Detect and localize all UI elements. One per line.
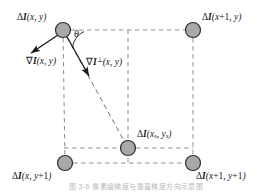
args-perpendicular: (x, y)	[103, 57, 123, 67]
args-bottom-left-b: )	[48, 171, 51, 181]
gradient-diagram: ΔI(x, y) ΔI(x+1, y) ΔI(x, y+1) ΔI(x+1, y…	[0, 0, 272, 193]
args-bottom-right-plus-2: +1	[232, 171, 242, 181]
label-gradient-vector: ∇I(x, y)	[26, 57, 56, 67]
node-bottom-left	[58, 156, 73, 171]
node-top-right	[186, 23, 201, 38]
sub-pixel-close-paren: )	[168, 129, 171, 139]
nabla-symbol-gradient: ∇	[26, 56, 33, 66]
perpendicular-gradient-vector-arrow	[66, 35, 89, 76]
gradient-vector-arrow	[31, 33, 61, 53]
label-perpendicular-gradient-vector: ∇I⊥(x, y)	[86, 57, 122, 67]
node-bottom-right	[186, 156, 201, 171]
node-top-left	[56, 23, 71, 38]
diagram-canvas	[0, 0, 272, 193]
args-bottom-right-plus-1: +1	[213, 171, 223, 181]
args-bottom-left-a: (x, y	[22, 171, 38, 181]
grid-line-left	[63, 30, 65, 163]
args-bottom-left-plus: +1	[38, 171, 48, 181]
args-bottom-right-c: )	[242, 171, 245, 181]
node-sub-pixel	[121, 141, 136, 156]
args-top-right-plus: +1	[219, 12, 229, 22]
figure-caption: 图 3-6 像素级梯度与垂直梯度方向示意图	[0, 181, 272, 191]
args-bottom-right-b: , y	[223, 171, 232, 181]
args-top-left: (x, y)	[27, 12, 47, 22]
label-theta-angle: θ	[74, 28, 79, 39]
label-top-left-node: ΔI(x, y)	[17, 13, 46, 23]
args-gradient: (x, y)	[37, 56, 57, 66]
label-top-right-node: ΔI(x+1, y)	[202, 13, 241, 23]
nabla-symbol-perpendicular: ∇	[86, 57, 93, 67]
args-top-right-b: , y)	[229, 12, 241, 22]
label-sub-pixel-node: ΔI(xs, ys)	[137, 130, 172, 140]
